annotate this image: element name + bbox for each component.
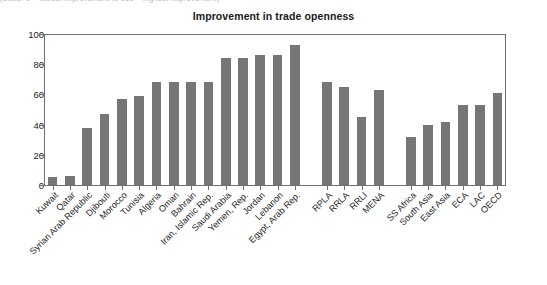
bar xyxy=(169,82,179,185)
chart-title: Improvement in trade openness xyxy=(0,10,547,22)
chart-figure: (scale: 0 = lowest improvement to 100 = … xyxy=(0,0,547,285)
bar xyxy=(186,82,196,185)
bar xyxy=(221,58,231,185)
bar xyxy=(493,93,503,185)
bar xyxy=(406,137,416,185)
clipped-caption-text: (scale: 0 = lowest improvement to 100 = … xyxy=(0,0,547,4)
bar xyxy=(290,45,300,185)
bar xyxy=(475,105,485,185)
bar xyxy=(374,90,384,185)
bar xyxy=(48,177,58,185)
x-axis-labels: KuwaitQatarSyrian Arab RepublicDjiboutiM… xyxy=(44,190,506,285)
bar xyxy=(339,87,349,185)
